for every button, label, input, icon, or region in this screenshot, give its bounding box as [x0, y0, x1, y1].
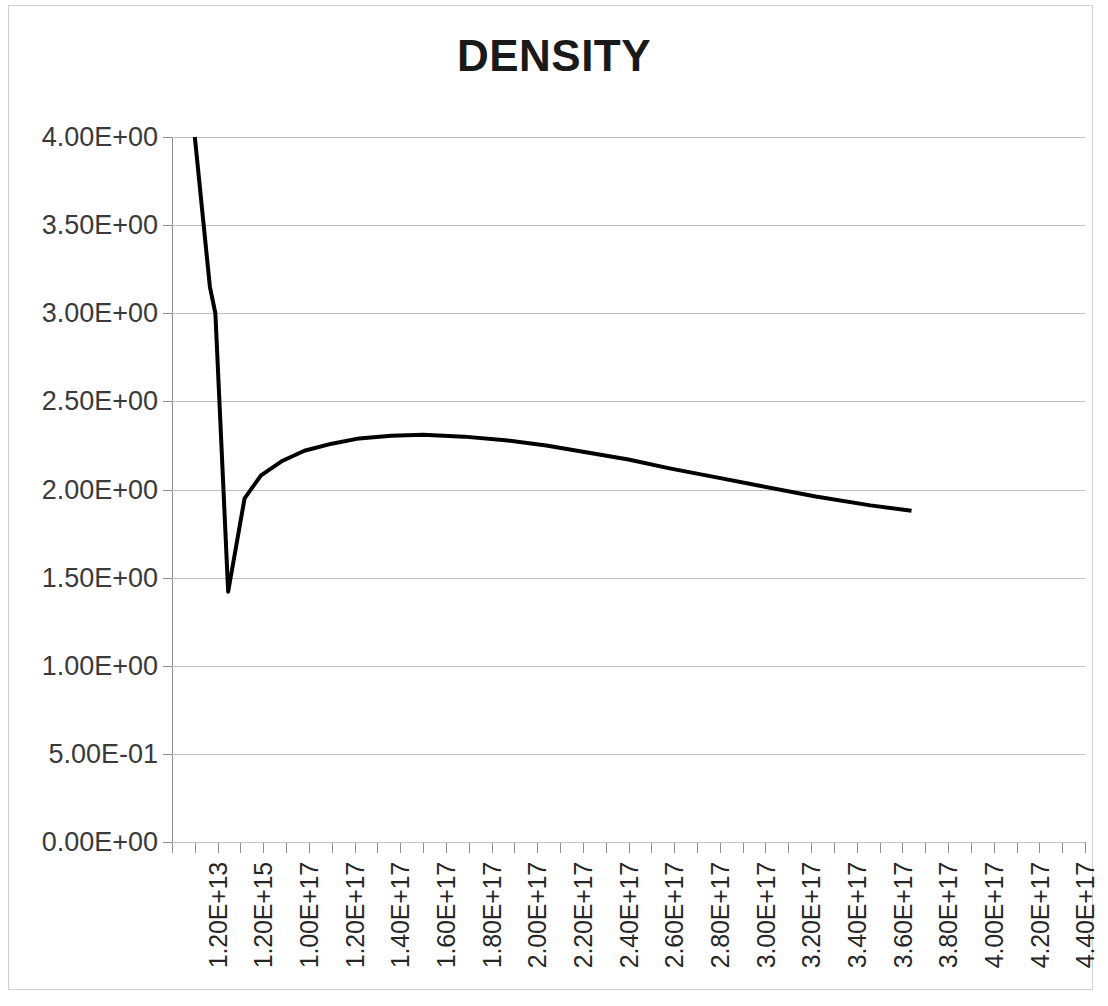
x-axis-tick-label: 3.60E+17 [891, 862, 916, 968]
density-series-line [172, 137, 1085, 842]
x-axis-tick-mark [400, 842, 401, 853]
x-axis-tick-label: 1.00E+17 [297, 862, 322, 968]
x-axis-minor-tick-mark [788, 842, 789, 853]
x-axis-tick-label: 4.20E+17 [1028, 862, 1053, 968]
x-axis-tick-label: 1.20E+17 [343, 862, 368, 968]
x-axis-tick-mark [674, 842, 675, 853]
y-axis-tick-label: 3.50E+00 [8, 212, 158, 239]
y-axis-tick-label: 4.00E+00 [8, 124, 158, 151]
x-axis-tick-mark [1085, 842, 1086, 853]
x-axis-minor-tick-mark [1017, 842, 1018, 853]
x-axis-minor-tick-mark [377, 842, 378, 853]
x-axis-minor-tick-mark [971, 842, 972, 853]
x-axis-tick-label: 3.80E+17 [936, 862, 961, 968]
x-axis-tick-label: 1.60E+17 [434, 862, 459, 968]
y-axis-tick-label: 5.00E-01 [8, 741, 158, 768]
x-axis-minor-tick-mark [240, 842, 241, 853]
x-axis-tick-mark [263, 842, 264, 853]
x-axis-minor-tick-mark [560, 842, 561, 853]
x-axis-tick-mark [309, 842, 310, 853]
x-axis-tick-label: 2.00E+17 [525, 862, 550, 968]
x-axis-minor-tick-mark [651, 842, 652, 853]
x-axis-minor-tick-mark [834, 842, 835, 853]
x-axis-tick-mark [811, 842, 812, 853]
x-axis-tick-label: 1.40E+17 [388, 862, 413, 968]
plot-area [172, 137, 1085, 842]
x-axis-tick-mark [218, 842, 219, 853]
x-axis-minor-tick-mark [514, 842, 515, 853]
y-axis-tick-label: 3.00E+00 [8, 300, 158, 327]
x-axis-tick-label: 3.00E+17 [754, 862, 779, 968]
x-axis-tick-mark [172, 842, 173, 853]
x-axis-tick-label: 3.40E+17 [845, 862, 870, 968]
x-axis-minor-tick-mark [195, 842, 196, 853]
x-axis-tick-mark [446, 842, 447, 853]
x-axis-tick-label: 1.80E+17 [480, 862, 505, 968]
x-axis-tick-mark [583, 842, 584, 853]
x-axis-tick-label: 1.20E+15 [251, 862, 276, 968]
density-chart: DENSITY 4.00E+003.50E+003.00E+002.50E+00… [0, 0, 1108, 1006]
x-axis-tick-label: 1.20E+13 [206, 862, 231, 968]
x-axis-minor-tick-mark [606, 842, 607, 853]
x-axis-tick-label: 4.00E+17 [982, 862, 1007, 968]
x-axis-minor-tick-mark [743, 842, 744, 853]
x-axis-tick-mark [720, 842, 721, 853]
x-axis-tick-mark [629, 842, 630, 853]
x-axis-minor-tick-mark [880, 842, 881, 853]
y-axis-tick-label: 1.50E+00 [8, 565, 158, 592]
gridline [172, 842, 1085, 843]
x-axis-tick-mark [492, 842, 493, 853]
x-axis-tick-label: 3.20E+17 [799, 862, 824, 968]
x-axis-tick-label: 2.20E+17 [571, 862, 596, 968]
x-axis-tick-mark [948, 842, 949, 853]
x-axis-tick-label: 2.60E+17 [662, 862, 687, 968]
x-axis-minor-tick-mark [423, 842, 424, 853]
x-axis-minor-tick-mark [925, 842, 926, 853]
y-axis-tick-label: 2.00E+00 [8, 477, 158, 504]
x-axis-tick-label: 2.40E+17 [617, 862, 642, 968]
x-axis-tick-mark [857, 842, 858, 853]
y-axis-tick-label: 0.00E+00 [8, 829, 158, 856]
x-axis-minor-tick-mark [332, 842, 333, 853]
x-axis-tick-label: 2.80E+17 [708, 862, 733, 968]
x-axis-tick-mark [765, 842, 766, 853]
x-axis-minor-tick-mark [286, 842, 287, 853]
x-axis-tick-mark [537, 842, 538, 853]
x-axis-tick-mark [902, 842, 903, 853]
y-axis-tick-labels: 4.00E+003.50E+003.00E+002.50E+002.00E+00… [0, 0, 158, 1006]
x-axis-tick-mark [355, 842, 356, 853]
y-axis-tick-label: 1.00E+00 [8, 653, 158, 680]
y-axis-tick-label: 2.50E+00 [8, 388, 158, 415]
series-polyline [195, 137, 912, 592]
x-axis-tick-label: 4.40E+17 [1073, 862, 1098, 968]
x-axis-minor-tick-mark [1062, 842, 1063, 853]
x-axis-tick-mark [1039, 842, 1040, 853]
x-axis-tick-mark [994, 842, 995, 853]
chart-title: DENSITY [0, 28, 1108, 84]
x-axis-minor-tick-mark [697, 842, 698, 853]
x-axis-minor-tick-mark [469, 842, 470, 853]
